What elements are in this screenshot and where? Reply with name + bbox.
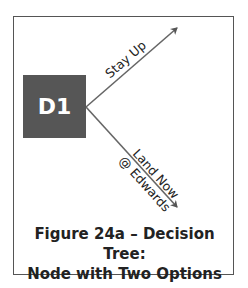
figure-caption: Figure 24a – Decision Tree: Node with Tw… bbox=[14, 224, 235, 284]
stay-up-arrow bbox=[86, 28, 177, 107]
node-label: D1 bbox=[38, 94, 72, 119]
decision-node: D1 bbox=[23, 75, 86, 138]
